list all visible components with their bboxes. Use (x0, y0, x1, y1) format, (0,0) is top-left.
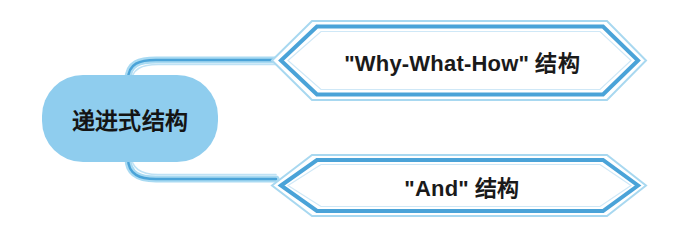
diagram-canvas: 递进式结构 "Why-What-How" 结构 "And" 结构 (0, 0, 678, 243)
branch-node-0-label: "Why-What-How" 结构 (312, 21, 612, 100)
root-node-label: 递进式结构 (42, 75, 218, 162)
branch-node-1-label: "And" 结构 (312, 155, 612, 216)
